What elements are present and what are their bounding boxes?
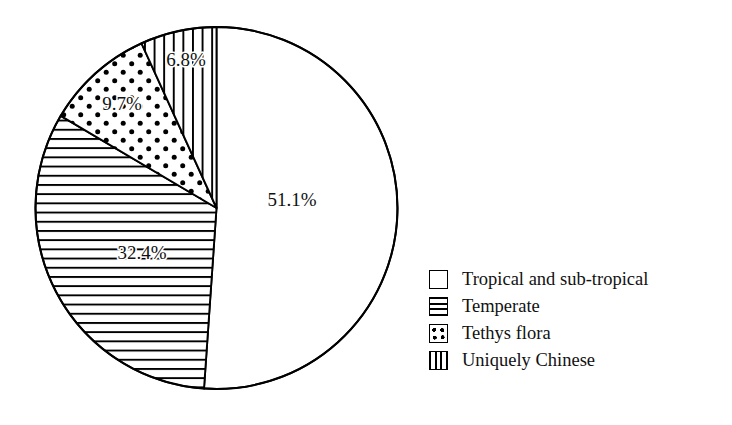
legend-label-tethys-flora: Tethys flora: [462, 324, 551, 343]
slice-label-chinese: 6.8%: [166, 49, 206, 70]
legend-item-tethys-flora[interactable]: Tethys flora: [429, 320, 729, 347]
legend-label-temperate: Temperate: [462, 297, 540, 316]
pie-chart-figure: 51.1% 32.4% 9.7% 6.8% Tropical and sub-t…: [0, 0, 732, 425]
legend-item-temperate[interactable]: Temperate: [429, 293, 729, 320]
legend-swatch-vertical-lines-icon: [429, 351, 448, 370]
legend-label-tropical-and-sub-tropical: Tropical and sub-tropical: [462, 270, 648, 289]
legend-swatch-dots-icon: [429, 324, 448, 343]
legend-swatch-horizontal-lines-icon: [429, 297, 448, 316]
slice-label-tethys: 9.7%: [102, 93, 142, 114]
legend-item-tropical-and-sub-tropical[interactable]: Tropical and sub-tropical: [429, 266, 729, 293]
slice-label-tropical: 51.1%: [267, 189, 316, 210]
slice-label-temperate: 32.4%: [117, 242, 166, 263]
legend: Tropical and sub-tropical Temperate Teth…: [429, 266, 729, 374]
legend-label-uniquely-chinese: Uniquely Chinese: [462, 351, 595, 370]
legend-item-uniquely-chinese[interactable]: Uniquely Chinese: [429, 347, 729, 374]
legend-swatch-solid-white-icon: [429, 270, 448, 289]
